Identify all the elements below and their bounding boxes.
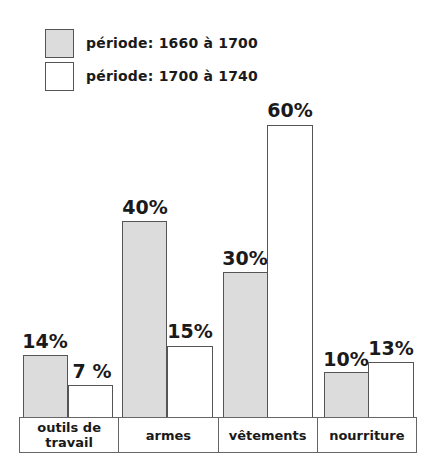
- legend-swatch-1700-1740: [45, 62, 74, 91]
- legend-label-1660-1700: période: 1660 à 1700: [86, 35, 258, 51]
- value-label-outils-1660: 14%: [15, 330, 75, 352]
- category-vetements: vêtements: [219, 418, 318, 452]
- category-armes: armes: [119, 418, 218, 452]
- bar-vetements-1700: [267, 125, 313, 418]
- value-label-armes-1660: 40%: [115, 196, 175, 218]
- value-label-vetements-1660: 30%: [215, 247, 275, 269]
- category-axis: outils de travail armes vêtements nourri…: [19, 417, 417, 453]
- category-nourriture: nourriture: [318, 418, 416, 452]
- bar-nourriture-1660: [324, 372, 369, 418]
- legend-swatch-1660-1700: [45, 29, 74, 58]
- bar-outils-1700: [68, 385, 113, 418]
- category-outils-de-travail: outils de travail: [20, 418, 119, 452]
- legend-label-1700-1740: période: 1700 à 1740: [86, 68, 258, 84]
- value-label-vetements-1700: 60%: [260, 99, 320, 121]
- value-label-nourriture-1700: 13%: [361, 337, 421, 359]
- bar-vetements-1660: [223, 272, 268, 418]
- bar-nourriture-1700: [368, 362, 414, 418]
- value-label-armes-1700: 15%: [160, 320, 220, 342]
- value-label-outils-1700: 7 %: [62, 360, 122, 382]
- bar-armes-1700: [167, 346, 213, 418]
